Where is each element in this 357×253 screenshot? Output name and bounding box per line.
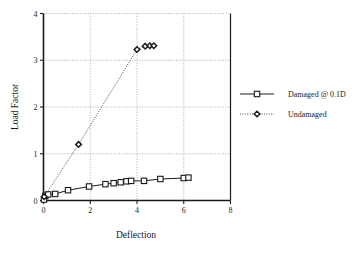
chart-canvas: 0246801234 Damaged @ 0.1DUndamaged Defle… — [0, 0, 357, 253]
series-line — [44, 46, 154, 197]
chart-legend: Damaged @ 0.1DUndamaged — [240, 90, 346, 119]
data-point-marker-square — [103, 181, 108, 186]
axis-tick-labels: 0246801234 — [34, 10, 233, 216]
legend-item-damaged[interactable]: Damaged @ 0.1D — [240, 90, 346, 99]
series-undamaged — [41, 43, 156, 200]
y-tick-label: 4 — [34, 10, 38, 19]
data-point-marker-square — [158, 176, 163, 181]
data-point-marker-diamond — [151, 43, 157, 49]
x-axis-title: Deflection — [116, 230, 156, 240]
data-point-marker-square — [254, 91, 259, 96]
x-tick-label: 8 — [229, 206, 233, 215]
x-tick-label: 2 — [88, 206, 92, 215]
x-tick-label: 6 — [182, 206, 186, 215]
data-point-marker-square — [141, 178, 146, 183]
data-point-marker-square — [111, 181, 116, 186]
data-point-marker-square — [52, 191, 57, 196]
x-tick-label: 4 — [135, 206, 139, 215]
data-series — [41, 43, 191, 202]
data-point-marker-square — [65, 188, 70, 193]
series-damaged — [41, 175, 191, 202]
data-point-marker-square — [118, 180, 123, 185]
data-point-marker-square — [128, 178, 133, 183]
y-tick-label: 1 — [34, 150, 38, 159]
data-point-marker-diamond — [76, 142, 82, 148]
legend-item-undamaged[interactable]: Undamaged — [240, 110, 327, 119]
grid-lines — [44, 14, 231, 201]
y-tick-label: 3 — [34, 56, 38, 65]
axis-ticks — [40, 14, 231, 205]
y-tick-label: 2 — [34, 103, 38, 112]
legend-label: Damaged @ 0.1D — [288, 90, 346, 99]
chart-figure: 0246801234 Damaged @ 0.1DUndamaged Defle… — [0, 0, 357, 253]
data-point-marker-square — [86, 184, 91, 189]
data-point-marker-diamond — [134, 47, 140, 53]
legend-label: Undamaged — [288, 110, 327, 119]
y-tick-label: 0 — [34, 197, 38, 206]
data-point-marker-diamond — [254, 111, 260, 117]
data-point-marker-square — [186, 175, 191, 180]
y-axis-title: Load Factor — [10, 83, 20, 130]
x-tick-label: 0 — [42, 206, 46, 215]
